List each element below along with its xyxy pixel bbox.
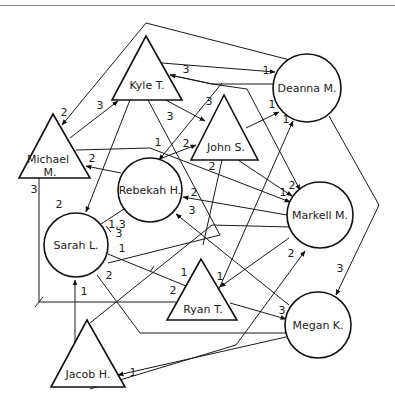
label-megan: Megan K. — [292, 319, 343, 332]
label-sarah: Sarah L. — [53, 239, 98, 252]
edge-weight-label: 3 — [337, 262, 344, 275]
edge-weight-label: 1 — [283, 113, 290, 126]
edge-weight-label: 3 — [279, 304, 286, 317]
label-markell: Markell M. — [292, 209, 348, 222]
label-deanna: Deanna M. — [277, 82, 336, 95]
sociogram: Kyle T. Michael M. John S. Deanna M. Reb… — [0, 0, 395, 398]
edge-weight-label: 2 — [61, 106, 68, 119]
edge-weight-label: 2 — [288, 247, 295, 260]
edge-weight-label: 2 — [209, 160, 216, 173]
edge-weight-label: 3 — [167, 110, 174, 123]
edge-weight-label: 3 — [97, 99, 104, 112]
label-ryan: Ryan T. — [183, 303, 223, 316]
edge-weight-label: 3 — [189, 204, 196, 217]
edge-weight-label: 3 — [206, 95, 213, 108]
edge-kyle-deanna — [162, 63, 275, 72]
label-john: John S. — [206, 141, 245, 154]
label-michael-2: M. — [44, 166, 57, 179]
edge-weight-label: 1 — [217, 270, 224, 283]
edge-weight-label: 1 — [269, 98, 276, 111]
edge-weight-label: 2 — [191, 186, 198, 199]
edge-weight-label: 2 — [289, 179, 296, 192]
edge-weight-label: 3 — [116, 227, 123, 240]
edge-markell-rebekah — [183, 197, 287, 215]
edge-deanna-kyle — [170, 75, 212, 84]
edge-weight-label: 2 — [170, 284, 177, 297]
edge-megan-jacob — [118, 337, 286, 375]
label-jacob: Jacob H. — [65, 368, 111, 381]
label-rebekah: Rebekah H. — [119, 184, 182, 197]
edge-deanna-kyle-a — [170, 75, 274, 84]
label-michael-1: Michael — [27, 153, 69, 166]
edge-weight-label: 2 — [89, 152, 96, 165]
edge-weight-label: 2 — [56, 198, 63, 211]
edge-john-deanna — [246, 112, 279, 128]
edge-sarah-ryan — [108, 254, 186, 286]
edge-weight-label: 1 — [81, 285, 88, 298]
edge-weight-label: 1 — [280, 186, 287, 199]
edge-weight-label: 1 — [181, 266, 188, 279]
edge-weight-label: 1 — [155, 136, 162, 149]
edge-weight-label: 2 — [183, 137, 190, 150]
edge-rebekah-john — [162, 145, 196, 158]
edge-weight-label: 3 — [183, 63, 190, 76]
edge-weight-label: 1 — [130, 366, 137, 379]
edge-weight-label: 2 — [106, 269, 113, 282]
tick-sarah-ryan — [150, 266, 154, 272]
label-kyle: Kyle T. — [129, 79, 164, 92]
edge-weight-label: 3 — [31, 183, 38, 196]
edge-diag-markell — [212, 225, 290, 227]
edge-weight-label: 1 — [263, 64, 270, 77]
edge-weight-label: 1 — [119, 242, 126, 255]
